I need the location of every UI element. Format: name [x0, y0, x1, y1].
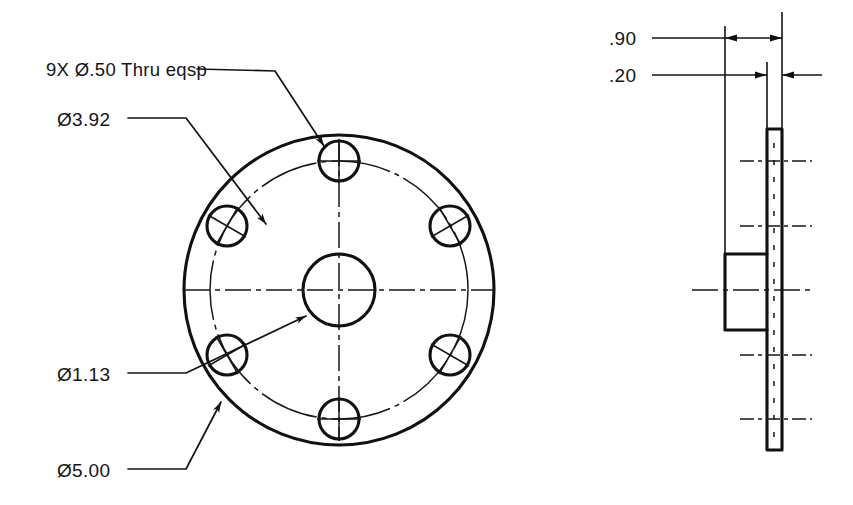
engineering-drawing-sheet: 9X Ø.50 Thru eqsp Ø3.92 Ø1.13 Ø5.00 — [0, 0, 853, 505]
dimension-20 — [652, 72, 822, 79]
bolt-hole-upper-right — [430, 206, 470, 246]
front-view — [184, 135, 494, 445]
dimension-20-arrow-left — [755, 72, 767, 79]
dimension-90-arrow-left — [725, 35, 737, 42]
bolt-hole-lower-right — [430, 335, 470, 375]
dimension-20-label: .20 — [609, 65, 636, 86]
bolt-hole-lower-left — [207, 335, 247, 375]
drawing-canvas: 9X Ø.50 Thru eqsp Ø3.92 Ø1.13 Ø5.00 — [0, 0, 853, 505]
outer-dia-dim-label: Ø5.00 — [57, 460, 110, 481]
outer-dia-dim-leader — [128, 402, 221, 469]
center-hole-dim-label: Ø1.13 — [57, 364, 110, 385]
boss-profile — [725, 254, 767, 330]
hole-note-label: 9X Ø.50 Thru eqsp — [46, 59, 207, 80]
dimension-20-arrow-right — [782, 72, 794, 79]
bolt-hole-bottom — [317, 397, 361, 441]
dimension-90-arrow-right — [770, 35, 782, 42]
bolt-circle-dim-label: Ø3.92 — [57, 109, 110, 130]
hole-note-leader — [197, 69, 324, 146]
dimension-90 — [652, 35, 782, 42]
bolt-circle-dim-leader — [128, 118, 266, 224]
center-hole-dim-leader — [128, 316, 306, 373]
bolt-hole-upper-left — [207, 206, 247, 246]
dimension-90-label: .90 — [609, 28, 636, 49]
